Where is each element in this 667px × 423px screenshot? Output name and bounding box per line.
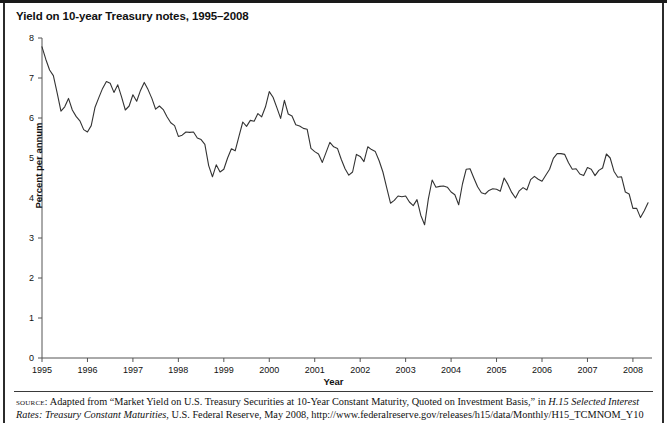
x-tick-label: 1998: [168, 365, 188, 375]
x-tick-label: 2004: [441, 365, 461, 375]
x-tick-label: 1995: [32, 365, 52, 375]
x-tick-label: 2005: [487, 365, 507, 375]
source-label: source:: [16, 396, 48, 407]
x-tick-label: 2003: [396, 365, 416, 375]
source-text-second: , U.S. Federal Reserve, May 2008, http:/…: [166, 409, 643, 420]
y-tick-label: 3: [29, 233, 34, 243]
y-tick-label: 7: [29, 73, 34, 83]
y-axis-title: Percent per annum: [33, 106, 44, 226]
line-chart-plot: 012345678 199519961997199819992000200120…: [0, 0, 667, 380]
source-separator-rule: [14, 391, 653, 392]
y-tick-label: 1: [29, 313, 34, 323]
x-tick-label: 1997: [123, 365, 143, 375]
y-tick-label: 2: [29, 273, 34, 283]
x-axis-title: Year: [0, 376, 667, 387]
source-note: source: Adapted from “Market Yield on U.…: [16, 396, 654, 421]
source-text-first: Adapted from “Market Yield on U.S. Treas…: [48, 396, 549, 407]
x-tick-label: 1996: [77, 365, 97, 375]
x-tick-label: 2002: [350, 365, 370, 375]
x-tick-label: 1999: [214, 365, 234, 375]
x-tick-label: 2006: [532, 365, 552, 375]
x-tick-label: 2001: [305, 365, 325, 375]
x-tick-label: 2008: [623, 365, 643, 375]
y-tick-label: 8: [29, 33, 34, 43]
x-axis: 1995199619971998199920002001200220032004…: [32, 358, 652, 375]
y-tick-label: 0: [29, 353, 34, 363]
x-tick-label: 2007: [577, 365, 597, 375]
series-line-treasury-yield: [42, 47, 648, 225]
figure-container: Yield on 10-year Treasury notes, 1995–20…: [0, 0, 667, 423]
x-tick-label: 2000: [259, 365, 279, 375]
